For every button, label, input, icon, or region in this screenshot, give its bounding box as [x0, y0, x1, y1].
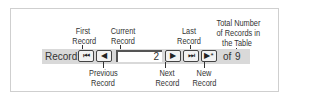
previous-record-icon: ◀ [101, 52, 107, 60]
callout-text: First [72, 26, 93, 36]
callout-text: Record [193, 78, 216, 88]
callout-text: Previous [89, 68, 117, 78]
callout-text: New [193, 68, 216, 78]
callout-text: Next [156, 68, 179, 78]
callout-text: Record [111, 36, 136, 46]
callout-total-records: Total Number of Records in the Table [217, 18, 258, 48]
callout-text: Last [177, 26, 202, 36]
new-record-button[interactable]: ▶* [201, 50, 217, 62]
current-record-input[interactable]: 2 [116, 50, 162, 62]
last-record-icon: ⏭ [188, 52, 195, 60]
previous-record-button[interactable]: ◀ [96, 50, 112, 62]
callout-text: Current [111, 26, 136, 36]
callout-text: Record [177, 36, 202, 46]
callout-text: Record [156, 78, 179, 88]
callout-new-record: New Record [193, 68, 216, 88]
callout-text: Record [72, 36, 93, 46]
record-label: Record: [45, 51, 80, 62]
next-record-button[interactable]: ▶ [165, 50, 181, 62]
callout-text: Record [89, 78, 117, 88]
first-record-icon: ⏮ [83, 52, 90, 60]
callout-text: of Records in [217, 28, 258, 38]
of-label: of [223, 51, 231, 62]
callout-next-record: Next Record [156, 68, 179, 88]
callout-text: the Table [217, 38, 258, 48]
callout-current-record: Current Record [111, 26, 136, 46]
callout-first-record: First Record [72, 26, 93, 46]
callout-text: Total Number [217, 18, 258, 28]
total-records-count: 9 [235, 51, 241, 62]
callout-last-record: Last Record [177, 26, 202, 46]
callout-previous-record: Previous Record [89, 68, 117, 88]
new-record-icon: ▶* [204, 52, 213, 60]
last-record-button[interactable]: ⏭ [183, 50, 199, 62]
first-record-button[interactable]: ⏮ [78, 50, 94, 62]
next-record-icon: ▶ [170, 52, 176, 60]
